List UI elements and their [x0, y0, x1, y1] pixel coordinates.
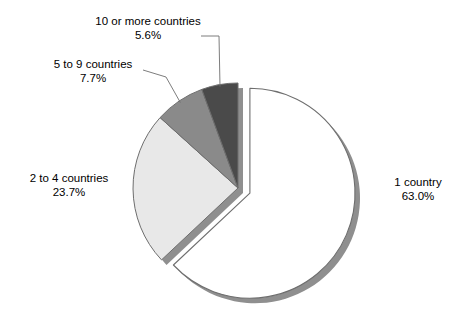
pie-label-2-to-4-countries-name: 2 to 4 countries [14, 171, 124, 185]
leader-line-5-to-9-countries [143, 70, 180, 103]
pie-label-5-to-9-countries-percent: 7.7% [45, 71, 141, 85]
pie-label-5-to-9-countries: 5 to 9 countries 7.7% [45, 57, 141, 85]
leader-line-10-or-more-countries [201, 36, 220, 87]
pie-label-10-or-more-countries-percent: 5.6% [92, 28, 204, 42]
pie-label-1-country-name: 1 country [378, 175, 458, 189]
pie-label-10-or-more-countries: 10 or more countries 5.6% [92, 14, 204, 42]
pie-label-1-country-percent: 63.0% [378, 189, 458, 203]
pie-label-5-to-9-countries-name: 5 to 9 countries [45, 57, 141, 71]
pie-label-2-to-4-countries: 2 to 4 countries 23.7% [14, 171, 124, 199]
pie-label-10-or-more-countries-name: 10 or more countries [92, 14, 204, 28]
pie-chart-graphic [0, 0, 468, 332]
pie-label-2-to-4-countries-percent: 23.7% [14, 185, 124, 199]
pie-chart-figure: 10 or more countries 5.6% 5 to 9 countri… [0, 0, 468, 332]
pie-label-1-country: 1 country 63.0% [378, 175, 458, 203]
